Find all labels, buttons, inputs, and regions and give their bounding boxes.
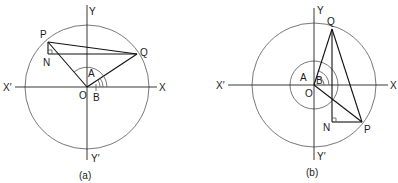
segment-pq-a	[48, 42, 137, 54]
angle-arc-b-outer-a	[100, 78, 103, 87]
segment-op-a	[48, 42, 87, 87]
figure-b: P Q N O A B X X′ Y Y′ (b)	[216, 5, 397, 178]
angle-arc-b-inner-a	[98, 80, 100, 87]
label-angle-a-a: A	[88, 68, 95, 79]
label-n-a: N	[43, 57, 50, 68]
caption-b: (b)	[306, 167, 318, 178]
right-angle-mark-b	[332, 118, 336, 122]
label-q-b: Q	[327, 16, 335, 27]
label-x-a: X	[159, 82, 166, 93]
figure-a: P Q N O A B X X′ Y Y′ (a)	[3, 5, 166, 181]
label-angle-a-b: A	[300, 72, 307, 83]
label-o-b: O	[305, 88, 313, 99]
label-angle-b-b: B	[316, 75, 323, 86]
label-p-b: P	[364, 124, 371, 135]
segment-op-b	[314, 85, 362, 122]
label-p-a: P	[40, 29, 47, 40]
label-yprime-a: Y′	[91, 153, 100, 164]
label-o-a: O	[79, 90, 87, 101]
label-yprime-b: Y′	[317, 151, 326, 162]
label-angle-b-a: B	[93, 92, 100, 103]
label-x-b: X	[390, 80, 397, 91]
label-xprime-b: X′	[216, 80, 225, 91]
caption-a: (a)	[79, 170, 91, 181]
diagram-canvas: P Q N O A B X X′ Y Y′ (a) P Q N O A B X	[0, 0, 398, 183]
label-xprime-a: X′	[3, 82, 12, 93]
right-angle-mark-a	[48, 50, 52, 54]
label-y-a: Y	[89, 6, 96, 17]
label-n-b: N	[323, 122, 330, 133]
segment-qp-b	[332, 29, 362, 122]
label-q-a: Q	[140, 47, 148, 58]
label-y-b: Y	[317, 5, 324, 16]
